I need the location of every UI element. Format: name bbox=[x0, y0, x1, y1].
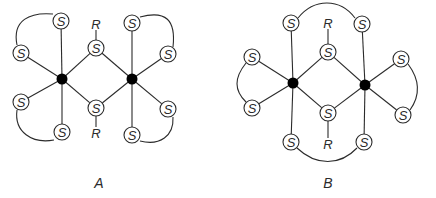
sulfur-label: S bbox=[164, 102, 173, 117]
metal-sulfur-bond bbox=[291, 31, 293, 83]
sulfur-label: S bbox=[324, 106, 333, 121]
metal-sulfur-bond bbox=[365, 85, 397, 110]
sulfur-atom: S bbox=[54, 124, 70, 140]
bridging-sulfur-atom: S bbox=[88, 40, 104, 56]
sulfur-label: S bbox=[128, 16, 137, 31]
r-group-label: R bbox=[91, 126, 100, 141]
metal-sulfur-bond bbox=[62, 53, 90, 79]
bridging-sulfur-atom: S bbox=[320, 105, 336, 121]
metal-sulfur-bond bbox=[364, 85, 365, 134]
sulfur-atom: S bbox=[356, 134, 372, 150]
sulfur-label: S bbox=[17, 95, 26, 110]
sulfur-atom: S bbox=[53, 13, 69, 29]
bridging-sulfur-atom: S bbox=[320, 44, 336, 60]
sulfur-atom: S bbox=[13, 94, 29, 110]
structure-a: SSSSSSSSSSRRA bbox=[13, 13, 176, 191]
metal-sulfur-bond bbox=[102, 53, 132, 79]
sulfur-label: S bbox=[324, 45, 333, 60]
metal-center-icon bbox=[360, 80, 371, 91]
sulfur-label: S bbox=[92, 101, 101, 116]
metal-sulfur-bond bbox=[132, 79, 162, 104]
panel-caption-b: B bbox=[323, 175, 332, 191]
sulfur-atom: S bbox=[124, 15, 140, 31]
metal-sulfur-bond bbox=[293, 83, 322, 108]
chelate-loop bbox=[237, 63, 246, 102]
sulfur-label: S bbox=[17, 46, 26, 61]
sulfur-label: S bbox=[287, 16, 296, 31]
sulfur-label: S bbox=[360, 135, 369, 150]
sulfur-label: S bbox=[128, 128, 137, 143]
metal-sulfur-bond bbox=[334, 85, 365, 108]
metal-sulfur-bond bbox=[28, 57, 62, 79]
metal-sulfur-bond bbox=[259, 61, 293, 83]
chelate-loop bbox=[16, 14, 53, 45]
sulfur-label: S bbox=[58, 125, 67, 140]
sulfur-label: S bbox=[358, 17, 367, 32]
metal-center-icon bbox=[127, 74, 138, 85]
metal-center-icon bbox=[57, 74, 68, 85]
r-group-label: R bbox=[323, 16, 332, 31]
sulfur-label: S bbox=[287, 135, 296, 150]
sulfur-label: S bbox=[397, 52, 406, 67]
sulfur-atom: S bbox=[283, 15, 299, 31]
chelate-loop bbox=[140, 117, 173, 142]
metal-sulfur-bond bbox=[334, 57, 365, 85]
sulfur-atom: S bbox=[283, 134, 299, 150]
metal-sulfur-bond bbox=[293, 57, 322, 83]
metal-sulfur-bond bbox=[362, 32, 365, 85]
sulfur-label: S bbox=[248, 50, 257, 65]
metal-sulfur-bond bbox=[102, 79, 132, 103]
metal-sulfur-bond bbox=[61, 29, 62, 79]
sulfur-atom: S bbox=[354, 16, 370, 32]
panel-caption-a: A bbox=[93, 175, 103, 191]
metal-sulfur-bond bbox=[28, 79, 62, 98]
sulfur-atom: S bbox=[244, 100, 260, 116]
sulfur-label: S bbox=[92, 41, 101, 56]
sulfur-label: S bbox=[164, 47, 173, 62]
metal-sulfur-bond bbox=[259, 83, 293, 104]
sulfur-label: S bbox=[399, 108, 408, 123]
chelate-loop bbox=[17, 110, 54, 141]
metal-center-icon bbox=[288, 78, 299, 89]
chelate-loop bbox=[140, 15, 174, 47]
sulfur-label: S bbox=[57, 14, 66, 29]
sulfur-atom: S bbox=[160, 46, 176, 62]
coordination-diagram: SSSSSSSSSSRRA SSSSSSSSSSRRB bbox=[0, 0, 436, 198]
sulfur-atom: S bbox=[160, 101, 176, 117]
metal-sulfur-bond bbox=[62, 79, 90, 103]
structure-b: SSSSSSSSSSRRB bbox=[237, 3, 417, 191]
sulfur-atom: S bbox=[395, 107, 411, 123]
chelate-loop bbox=[408, 64, 417, 110]
bridging-sulfur-atom: S bbox=[88, 100, 104, 116]
sulfur-atom: S bbox=[244, 49, 260, 65]
sulfur-atom: S bbox=[124, 127, 140, 143]
sulfur-label: S bbox=[248, 101, 257, 116]
metal-sulfur-bond bbox=[291, 83, 293, 134]
sulfur-atom: S bbox=[393, 51, 409, 67]
r-group-label: R bbox=[91, 17, 100, 32]
r-group-label: R bbox=[323, 137, 332, 152]
sulfur-atom: S bbox=[13, 45, 29, 61]
